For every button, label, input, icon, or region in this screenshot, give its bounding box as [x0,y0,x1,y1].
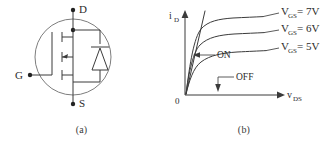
leader-line-vgs-5v [266,48,279,51]
caption-a: (a) [0,124,163,135]
drain-label: D [79,3,87,15]
legend-vgs-5v-sub: GS [288,47,297,55]
x-axis-label-main: v [287,89,292,100]
drain-terminal-dot [71,8,75,12]
legend-vgs-7v-sub: GS [288,12,297,20]
y-axis-arrow-icon [182,10,189,18]
diode-triangle-icon [92,48,108,70]
source-label: S [79,97,85,109]
body-arrow-icon [62,54,68,59]
characteristics-chart-svg: i D v DS 0 V GS = 7V V GS = 6V [163,0,325,115]
legend-vgs-7v-value: = 7V [297,5,319,17]
leader-line-vgs-7v [263,13,279,17]
off-annotation-label: OFF [236,72,253,82]
figure-container: D S G [0,0,325,141]
panel-a-mosfet-symbol: D S G [0,0,163,141]
gate-label: G [15,69,23,81]
origin-label: 0 [175,96,180,106]
source-terminal-dot [71,102,75,106]
legend-vgs-6v-value: = 6V [297,22,319,34]
y-axis-label-sub: D [174,16,179,24]
panel-b-output-characteristics: i D v DS 0 V GS = 7V V GS = 6V [163,0,325,141]
legend-vgs-5v-value: = 5V [297,40,319,52]
mosfet-schematic-svg: D S G [0,0,163,115]
on-annotation-label: ON [217,50,231,60]
legend-vgs-6v-sub: GS [288,29,297,37]
leader-line-vgs-6v [264,30,279,33]
caption-b: (b) [163,124,325,135]
gate-terminal-dot [28,73,32,77]
x-axis-arrow-icon [277,92,285,99]
x-axis-label-sub: DS [293,95,302,103]
y-axis-label-main: i [169,10,172,21]
off-annotation-arrow-icon [215,84,221,92]
